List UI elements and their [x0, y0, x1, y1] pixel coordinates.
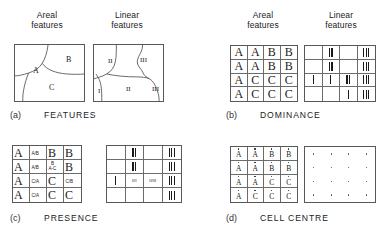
cell-centre-letter: C [286, 193, 291, 201]
cellcentre-cell: C [248, 188, 265, 202]
dominance-cell: C [281, 87, 298, 101]
cell-centre-letter: C [286, 179, 291, 187]
presence-cell: A [13, 188, 30, 202]
caption-tag-b: (b) [226, 110, 260, 120]
panel-a-areal-features-box [14, 44, 85, 102]
cell-centre-marker: A [253, 148, 258, 159]
dominance-letter: A [234, 46, 243, 58]
cell-centre-marker: C [286, 176, 291, 187]
dominance-letter: B [268, 46, 276, 58]
presence-major-letter: C [65, 189, 73, 201]
cell-centre-letter: B [269, 151, 274, 159]
dominance-cell: C [281, 74, 298, 88]
dominance-cell: A [231, 87, 248, 101]
presence-tick-cell [126, 146, 145, 160]
tick-marks [330, 74, 331, 87]
presence-cell: C [47, 174, 64, 188]
caption-tag-a: (a) [10, 110, 44, 120]
dominance-letter: A [234, 88, 243, 100]
tick-marks [169, 160, 175, 173]
tick-marks [348, 87, 349, 101]
cellcentre-cell: A [231, 161, 248, 175]
tick-marks [132, 146, 136, 159]
tick-marks [132, 160, 136, 173]
cellcentre-dot-cell [358, 161, 376, 175]
cell-centre-marker: B [269, 162, 274, 173]
column-heading-areal-b: Areal features [228, 10, 298, 30]
cell-centre-marker: B [269, 148, 274, 159]
dominance-cell: A [248, 60, 265, 74]
dominance-letter: A [251, 46, 260, 58]
centre-dot-icon [366, 153, 367, 154]
heading-line1: Areal [12, 10, 82, 20]
panel-b-linear-dominance-grid [304, 45, 376, 102]
presence-line-label: I/II [132, 178, 137, 183]
presence-tick-cell [107, 188, 126, 202]
dominance-letter: C [268, 88, 276, 100]
line-label-i: I [98, 87, 100, 95]
dominance-letter: C [251, 74, 259, 86]
caption-tag-c: (c) [10, 213, 44, 223]
presence-tick-cell: I/II [126, 174, 145, 188]
cell-centre-letter: A [236, 165, 241, 173]
dominance-tick-cell [358, 74, 376, 88]
cell-centre-marker: B [286, 162, 291, 173]
centre-dot-icon [288, 176, 290, 178]
centre-dot-icon [271, 176, 273, 178]
dominance-cell: A [248, 46, 265, 60]
dominance-letter: C [251, 88, 259, 100]
column-heading-areal-a: Areal features [12, 10, 82, 30]
dominance-letter: B [268, 60, 276, 72]
presence-tick-cell [163, 174, 182, 188]
dominance-tick-cell [305, 60, 323, 74]
cellcentre-cell: B [281, 147, 298, 161]
line-label-ii-top: II [108, 57, 113, 65]
tick-marks [115, 174, 116, 187]
cell-centre-marker: A [236, 148, 241, 159]
presence-major-letter: A [14, 161, 23, 173]
cellcentre-dot-cell [323, 161, 341, 175]
centre-dot-icon [313, 194, 314, 195]
cell-centre-marker: A [236, 190, 241, 201]
presence-cell: C [64, 188, 81, 202]
dominance-letter: C [285, 88, 293, 100]
centre-dot-icon [366, 194, 367, 195]
presence-minor-label: BA-C [49, 162, 57, 172]
cellcentre-dot-cell [305, 147, 323, 161]
dominance-tick-cell [323, 74, 341, 88]
line-label-ii-bottom: II [126, 85, 131, 93]
dominance-cell: A [231, 46, 248, 60]
presence-tick-cell [163, 160, 182, 174]
tick-marks [329, 60, 333, 73]
dominance-tick-cell [305, 74, 323, 88]
caption-panel-b: (b)DOMINANCE [226, 110, 321, 120]
caption-name-a: FEATURES [44, 110, 96, 120]
presence-minor-label: C/A [32, 194, 40, 199]
centre-dot-icon [366, 181, 367, 182]
centre-dot-icon [313, 153, 314, 154]
presence-tick-cell [163, 146, 182, 160]
presence-major-letter: B [48, 147, 56, 159]
tick-marks [363, 74, 369, 87]
cell-centre-marker: C [269, 190, 274, 201]
dominance-tick-cell [323, 87, 341, 101]
presence-tick-cell [107, 146, 126, 160]
tick-marks [363, 60, 369, 73]
cellcentre-cell: C [264, 175, 281, 189]
caption-name-d: CELL CENTRE [260, 213, 329, 223]
line-label-iii-top: III [140, 56, 147, 64]
tick-marks [329, 46, 333, 59]
cellcentre-dot-cell [358, 175, 376, 189]
panel-d-areal-cellcentre-grid: AABBAABBAACCACCC [230, 146, 298, 203]
cell-centre-marker: A [236, 162, 241, 173]
centre-dot-icon [348, 194, 349, 195]
tick-marks [169, 146, 175, 159]
cell-centre-marker: A [236, 176, 241, 187]
dominance-tick-cell [305, 87, 323, 101]
cellcentre-dot-cell [305, 175, 323, 189]
cellcentre-dot-cell [358, 147, 376, 161]
cellcentre-cell: C [264, 188, 281, 202]
presence-tick-cell [144, 146, 163, 160]
panel-a-linear-features-box [93, 44, 164, 102]
presence-cell: C/A [30, 174, 47, 188]
